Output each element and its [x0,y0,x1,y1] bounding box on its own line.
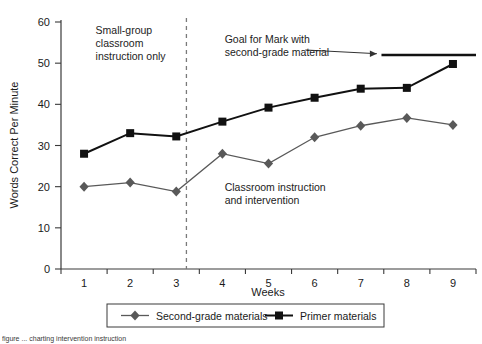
y-tick-label: 0 [44,263,50,275]
data-point-marker [172,132,180,140]
annotation-line: instruction only [96,50,167,62]
figure-caption: figure ... charting intervention instruc… [2,334,302,343]
chart-legend: Second-grade materialsPrimer materials [107,304,384,327]
y-tick-label: 40 [38,98,50,110]
y-axis-title: Words Correct Per Minute [8,82,20,209]
y-tick-label: 30 [38,140,50,152]
x-tick-label: 9 [450,277,456,289]
annotation-line: Classroom instruction [225,181,326,193]
annotation-line: Goal for Mark with [225,33,310,45]
data-point-marker [357,85,365,93]
data-point-marker [449,60,457,68]
x-tick-label: 2 [127,277,133,289]
annotation-line: Small-group [96,24,153,36]
x-tick-label: 1 [81,277,87,289]
x-tick-label: 6 [312,277,318,289]
x-tick-label: 5 [265,277,271,289]
line-chart: Words Correct Per Minute Weeks 010203040… [0,0,482,344]
y-tick-label: 10 [38,222,50,234]
legend-marker-square [275,312,283,320]
data-point-marker [311,94,319,102]
data-point-marker [80,150,88,158]
x-tick-label: 3 [173,277,179,289]
x-tick-label: 8 [404,277,410,289]
figure-container: Words Correct Per Minute Weeks 010203040… [0,0,482,344]
legend-label: Second-grade materials [156,310,267,322]
annotation-line: classroom [96,37,144,49]
y-tick-label: 60 [38,16,50,28]
data-point-marker [265,104,273,112]
y-tick-label: 50 [38,57,50,69]
data-point-marker [403,84,411,92]
legend-label: Primer materials [300,310,376,322]
data-point-marker [126,129,134,137]
x-tick-label: 4 [219,277,225,289]
x-tick-label: 7 [358,277,364,289]
y-tick-label: 20 [38,181,50,193]
data-point-marker [218,118,226,126]
annotation-line: second-grade material [225,46,329,58]
annotation-line: and intervention [225,194,300,206]
